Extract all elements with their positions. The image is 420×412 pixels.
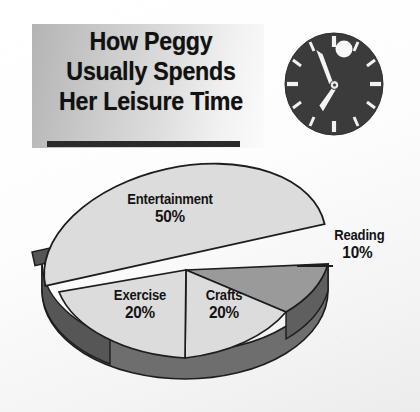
pie-label-crafts: Crafts 20%: [190, 288, 258, 322]
pie-label-entertainment-value: 50%: [102, 208, 239, 226]
title-underline-rule: [47, 141, 240, 147]
pie-label-entertainment: Entertainment 50%: [102, 192, 239, 226]
chart-page: How Peggy Usually Spends Her Leisure Tim…: [0, 0, 420, 412]
analog-clock-icon: [283, 32, 385, 136]
title-line-2: Usually Spends: [44, 56, 258, 86]
pie-chart: [18, 152, 338, 392]
pie-label-reading-name: Reading: [334, 228, 410, 243]
pie-label-exercise-value: 20%: [102, 304, 178, 322]
pie-label-reading-value: 10%: [334, 244, 410, 262]
pie-label-reading: Reading 10%: [334, 228, 410, 262]
pie-label-crafts-value: 20%: [190, 304, 258, 322]
reading-leader-line: [297, 265, 333, 267]
pie-label-exercise: Exercise 20%: [102, 288, 178, 322]
title-line-3: Her Leisure Time: [44, 86, 258, 116]
pie-label-exercise-name: Exercise: [102, 288, 178, 303]
pie-label-crafts-name: Crafts: [190, 288, 258, 303]
pie-label-entertainment-name: Entertainment: [102, 192, 239, 207]
page-title: How Peggy Usually Spends Her Leisure Tim…: [44, 26, 258, 116]
title-line-1: How Peggy: [44, 26, 258, 56]
